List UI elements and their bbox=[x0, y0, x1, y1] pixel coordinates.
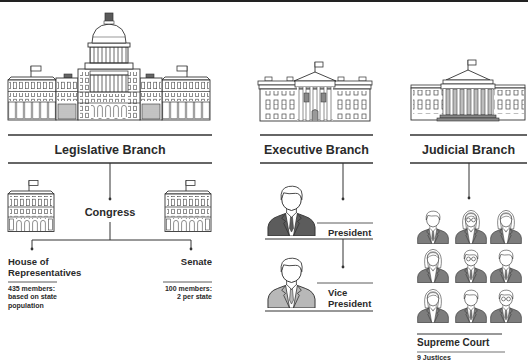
house-of-representatives-label: House of Representatives bbox=[8, 256, 81, 278]
senate-building-icon bbox=[165, 181, 211, 232]
judicial-branch-title: Judicial Branch bbox=[410, 142, 527, 158]
senate-detail-line-2: 2 per state bbox=[132, 293, 212, 301]
house-label-line-2: Representatives bbox=[8, 267, 81, 278]
senate-details: 100 members: 2 per state bbox=[132, 285, 212, 302]
justice-male-icon bbox=[491, 250, 522, 283]
house-label-line-1: House of bbox=[8, 256, 81, 267]
justice-male-icon bbox=[418, 211, 449, 244]
supreme-court-building-icon bbox=[411, 60, 525, 121]
supreme-court-label: Supreme Court bbox=[417, 337, 489, 349]
diagram-artwork bbox=[0, 0, 528, 362]
legislative-branch-title: Legislative Branch bbox=[8, 142, 212, 158]
capitol-building-icon bbox=[8, 13, 210, 120]
senate-label: Senate bbox=[112, 256, 212, 267]
house-detail-line-2: based on state bbox=[8, 293, 57, 301]
justice-male-glasses-icon bbox=[491, 290, 522, 323]
justice-male-icon bbox=[456, 290, 487, 323]
justice-female-long-hair-icon bbox=[418, 249, 449, 282]
justices-grid bbox=[418, 210, 522, 322]
house-detail-line-1: 435 members: bbox=[8, 285, 57, 293]
house-detail-line-3: population bbox=[8, 302, 57, 310]
president-label-line-1: President bbox=[328, 227, 371, 238]
justice-female-glasses-icon bbox=[456, 210, 487, 243]
vice-president-person-icon bbox=[268, 258, 315, 308]
justice-male-glasses-icon bbox=[456, 250, 487, 283]
executive-branch-title: Executive Branch bbox=[258, 142, 375, 158]
president-label: President bbox=[328, 227, 371, 238]
senate-label-line-1: Senate bbox=[112, 256, 212, 267]
justice-female-icon bbox=[491, 210, 522, 243]
vice-president-label: Vice President bbox=[328, 287, 371, 309]
congress-label: Congress bbox=[60, 206, 160, 219]
white-house-icon bbox=[258, 62, 372, 121]
vice-president-label-line-1: Vice bbox=[328, 287, 371, 298]
three-branches-diagram: Legislative Branch Executive Branch Judi… bbox=[0, 0, 528, 362]
top-border bbox=[0, 0, 528, 2]
house-details: 435 members: based on state population bbox=[8, 285, 57, 310]
vice-president-label-line-2: President bbox=[328, 298, 371, 309]
senate-detail-line-1: 100 members: bbox=[132, 285, 212, 293]
justices-count-label: 9 Justices bbox=[417, 354, 451, 362]
president-person-icon bbox=[268, 186, 315, 236]
house-building-icon bbox=[8, 181, 54, 232]
justice-female-long-hair-icon bbox=[418, 289, 449, 322]
